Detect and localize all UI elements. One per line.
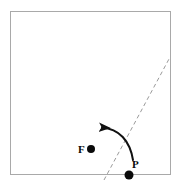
point-p-dot	[125, 171, 134, 180]
figure-container: F P	[0, 0, 181, 186]
point-f-dot	[87, 145, 95, 153]
point-p-label: P	[132, 158, 139, 170]
point-f-label: F	[78, 143, 85, 155]
figure-canvas: F P	[0, 0, 181, 186]
